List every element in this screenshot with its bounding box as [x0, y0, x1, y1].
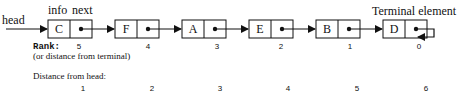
distance-value: 1: [73, 84, 93, 93]
distance-value: 6: [416, 84, 436, 93]
head-label: head: [2, 13, 25, 28]
rank-subtitle: (or distance from terminal): [33, 51, 130, 61]
next-field-label: next: [72, 3, 93, 18]
node-info: E: [249, 22, 271, 37]
distance-value: 4: [278, 84, 298, 93]
rank-value: 3: [207, 42, 227, 51]
node-info: F: [115, 22, 137, 37]
distance-header: Distance from head:: [33, 71, 106, 81]
node-info: D: [383, 22, 405, 37]
node-info: A: [182, 22, 204, 37]
rank-value: 5: [69, 42, 89, 51]
info-field-label: info: [48, 3, 67, 18]
node-info: B: [316, 22, 338, 37]
rank-value: 4: [138, 42, 158, 51]
rank-value: 0: [409, 42, 429, 51]
rank-value: 2: [271, 42, 291, 51]
distance-value: 5: [347, 84, 367, 93]
distance-value: 3: [210, 84, 230, 93]
terminal-element-label: Terminal element: [372, 4, 456, 19]
rank-value: 1: [340, 42, 360, 51]
distance-value: 2: [142, 84, 162, 93]
node-info: C: [48, 22, 70, 37]
